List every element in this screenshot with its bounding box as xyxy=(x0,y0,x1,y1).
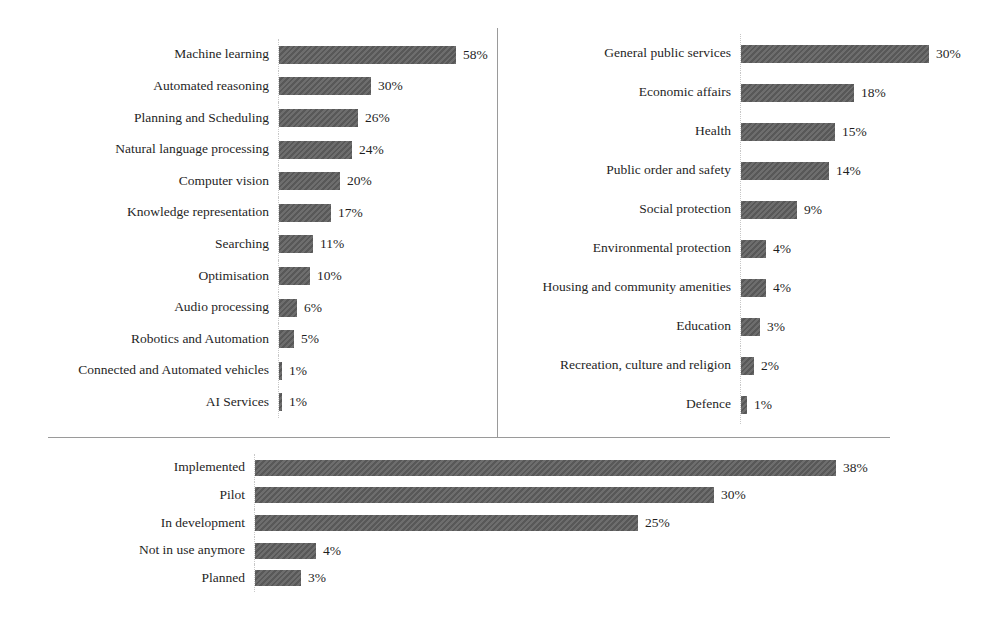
value-label: 30% xyxy=(721,487,746,503)
bar-cell: 2% xyxy=(740,346,1006,385)
category-label: Natural language processing xyxy=(0,142,278,157)
bar-cell: 58% xyxy=(278,39,497,71)
category-label: Defence xyxy=(497,397,740,412)
bar-cell: 24% xyxy=(278,134,497,166)
bar-row: Knowledge representation17% xyxy=(0,197,497,229)
category-label: Environmental protection xyxy=(497,241,740,256)
bar xyxy=(279,46,456,64)
bar xyxy=(279,172,340,190)
category-label: Pilot xyxy=(10,488,254,503)
bar-cell: 9% xyxy=(740,190,1006,229)
category-label: Housing and community amenities xyxy=(497,280,740,295)
bar-cell: 30% xyxy=(254,482,996,510)
bar-cell: 3% xyxy=(254,564,996,592)
bar xyxy=(255,570,301,586)
bar xyxy=(741,201,797,219)
category-label: In development xyxy=(10,516,254,531)
bar xyxy=(741,84,854,102)
bar-cell: 4% xyxy=(740,229,1006,268)
category-label: Machine learning xyxy=(0,47,278,62)
bar-row: Computer vision20% xyxy=(0,165,497,197)
bar-row: Health15% xyxy=(497,112,1006,151)
bar-row: Recreation, culture and religion2% xyxy=(497,346,1006,385)
bar xyxy=(279,235,313,253)
bar xyxy=(255,543,316,559)
bar-cell: 15% xyxy=(740,112,1006,151)
bar-cell: 18% xyxy=(740,73,1006,112)
category-label: Knowledge representation xyxy=(0,205,278,220)
value-label: 15% xyxy=(842,124,867,140)
value-label: 58% xyxy=(463,47,488,63)
bar-row: Not in use anymore4% xyxy=(10,537,996,565)
bar-cell: 4% xyxy=(254,537,996,565)
category-label: Connected and Automated vehicles xyxy=(0,363,278,378)
bar-cell: 14% xyxy=(740,151,1006,190)
category-label: Planning and Scheduling xyxy=(0,111,278,126)
value-label: 9% xyxy=(804,202,822,218)
bar-row: Pilot30% xyxy=(10,482,996,510)
value-label: 4% xyxy=(323,543,341,559)
bar xyxy=(255,460,836,476)
value-label: 1% xyxy=(289,394,307,410)
bar xyxy=(255,515,638,531)
value-label: 30% xyxy=(936,46,961,62)
value-label: 4% xyxy=(773,280,791,296)
bar-row: Planning and Scheduling26% xyxy=(0,102,497,134)
bar-cell: 30% xyxy=(278,71,497,103)
bar-row: Economic affairs18% xyxy=(497,73,1006,112)
bar-cell: 1% xyxy=(740,385,1006,424)
category-label: AI Services xyxy=(0,395,278,410)
bar xyxy=(279,267,310,285)
bar-cell: 4% xyxy=(740,268,1006,307)
category-label: Robotics and Automation xyxy=(0,332,278,347)
bar-cell: 17% xyxy=(278,197,497,229)
bar-cell: 26% xyxy=(278,102,497,134)
category-label: Audio processing xyxy=(0,300,278,315)
value-label: 1% xyxy=(754,397,772,413)
category-label: General public services xyxy=(497,46,740,61)
bar-row: Public order and safety14% xyxy=(497,151,1006,190)
bar xyxy=(279,299,297,317)
value-label: 30% xyxy=(378,78,403,94)
bar xyxy=(279,330,294,348)
bar-row: AI Services1% xyxy=(0,387,497,419)
bar-row: Implemented38% xyxy=(10,454,996,482)
bar xyxy=(741,279,766,297)
bar xyxy=(279,77,371,95)
category-label: Computer vision xyxy=(0,174,278,189)
bar xyxy=(279,204,331,222)
category-label: Social protection xyxy=(497,202,740,217)
category-label: Not in use anymore xyxy=(10,543,254,558)
bar-cell: 6% xyxy=(278,292,497,324)
bar-row: Education3% xyxy=(497,307,1006,346)
bar xyxy=(279,362,282,380)
bar-row: Robotics and Automation5% xyxy=(0,323,497,355)
category-label: Health xyxy=(497,124,740,139)
bar-cell: 20% xyxy=(278,165,497,197)
bar-row: General public services30% xyxy=(497,34,1006,73)
bar xyxy=(741,318,760,336)
value-label: 38% xyxy=(843,460,868,476)
bar-cell: 1% xyxy=(278,387,497,419)
bar-row: Defence1% xyxy=(497,385,1006,424)
bar-row: Planned3% xyxy=(10,564,996,592)
value-label: 26% xyxy=(365,110,390,126)
value-label: 18% xyxy=(861,85,886,101)
bar xyxy=(741,357,754,375)
bar xyxy=(741,162,829,180)
chart-government-functions: General public services30%Economic affai… xyxy=(497,34,1006,424)
bar-cell: 11% xyxy=(278,229,497,261)
category-label: Public order and safety xyxy=(497,163,740,178)
bar xyxy=(279,109,358,127)
bar-row: Searching11% xyxy=(0,229,497,261)
bar-row: Natural language processing24% xyxy=(0,134,497,166)
bar-cell: 38% xyxy=(254,454,996,482)
category-label: Optimisation xyxy=(0,269,278,284)
category-label: Automated reasoning xyxy=(0,79,278,94)
bar xyxy=(255,487,714,503)
value-label: 5% xyxy=(301,331,319,347)
bar xyxy=(741,396,747,414)
value-label: 4% xyxy=(773,241,791,257)
bar-cell: 25% xyxy=(254,509,996,537)
value-label: 14% xyxy=(836,163,861,179)
